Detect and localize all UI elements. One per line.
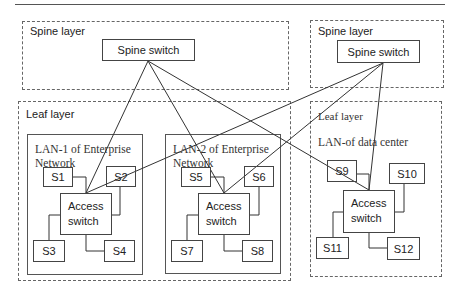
access-switch-dc-line2: switch	[351, 211, 394, 226]
server-s1[interactable]: S1	[43, 167, 73, 187]
server-s10-label: S10	[397, 168, 417, 180]
server-s11-label: S11	[323, 242, 342, 254]
access-switch-lan1-line2: switch	[68, 214, 111, 229]
server-s8-label: S8	[251, 245, 264, 257]
access-switch-lan2-line2: switch	[206, 214, 249, 229]
server-s2-label: S2	[114, 171, 127, 183]
access-switch-lan1-line1: Access	[68, 199, 111, 214]
server-s3-label: S3	[42, 245, 55, 257]
server-s10[interactable]: S10	[389, 163, 425, 184]
server-s4[interactable]: S4	[104, 240, 135, 262]
spine-switch-left[interactable]: Spine switch	[102, 39, 195, 61]
server-s6-label: S6	[252, 171, 265, 183]
server-s2[interactable]: S2	[106, 166, 136, 187]
access-switch-dc-line1: Access	[351, 196, 394, 211]
access-switch-lan2-line1: Access	[206, 199, 249, 214]
server-s12-label: S12	[394, 243, 414, 255]
server-s8[interactable]: S8	[242, 240, 273, 262]
server-s6[interactable]: S6	[244, 166, 274, 187]
server-s7-label: S7	[180, 245, 193, 257]
server-s9-label: S9	[335, 165, 348, 177]
server-s5-label: S5	[189, 171, 202, 183]
server-s4-label: S4	[113, 245, 126, 257]
access-switch-lan1[interactable]: Access switch	[60, 193, 112, 235]
server-s5[interactable]: S5	[181, 167, 211, 187]
server-s12[interactable]: S12	[387, 237, 420, 260]
server-s9[interactable]: S9	[327, 160, 357, 182]
spine-switch-right[interactable]: Spine switch	[337, 40, 420, 63]
access-switch-lan2[interactable]: Access switch	[198, 193, 250, 235]
spine-switch-right-label: Spine switch	[348, 46, 410, 58]
spine-switch-left-label: Spine switch	[118, 44, 180, 56]
server-s7[interactable]: S7	[171, 240, 203, 262]
server-s11[interactable]: S11	[316, 237, 349, 259]
access-switch-dc[interactable]: Access switch	[343, 190, 395, 233]
server-s3[interactable]: S3	[33, 240, 65, 262]
server-s1-label: S1	[51, 171, 64, 183]
